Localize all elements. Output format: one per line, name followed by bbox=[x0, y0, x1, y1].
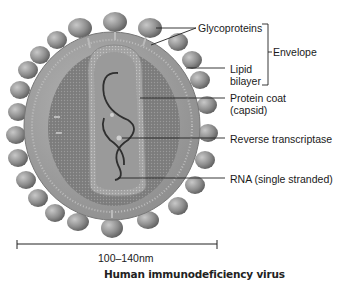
label-lipid: Lipid bbox=[230, 63, 252, 75]
label-rna: RNA (single stranded) bbox=[230, 173, 333, 185]
label-glycoproteins: Glycoproteins bbox=[198, 22, 262, 34]
label-protein-coat: Protein coat bbox=[230, 92, 286, 104]
label-reverse-transcriptase: Reverse transcriptase bbox=[230, 133, 332, 145]
reverse-transcriptase-dot bbox=[117, 136, 122, 141]
figure-caption: Human immunodeficiency virus bbox=[104, 268, 285, 280]
label-bilayer: bilayer bbox=[230, 75, 261, 87]
label-capsid: (capsid) bbox=[230, 104, 267, 116]
scale-label: 100–140nm bbox=[98, 252, 153, 264]
label-envelope: Envelope bbox=[273, 46, 317, 58]
scale-bar bbox=[17, 240, 217, 249]
